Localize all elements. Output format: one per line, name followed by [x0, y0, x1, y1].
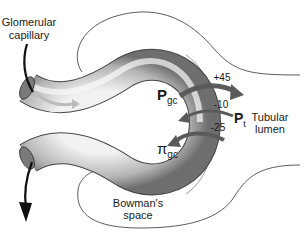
capillary-tube: [16, 61, 205, 179]
symbol-pgc: Pgc: [157, 86, 178, 106]
value-pgc: +45: [214, 72, 231, 83]
symbol-pt: Pt: [234, 110, 246, 129]
glomerular-filtration-diagram: Glomerular capillary Tubular lumen Bowma…: [0, 0, 304, 248]
value-pt: -10: [214, 99, 229, 110]
label-space: space: [123, 209, 152, 221]
label-glomerular: Glomerular: [2, 16, 57, 28]
label-bowmans: Bowman's: [113, 197, 164, 209]
value-pigc: -25: [211, 122, 226, 133]
label-capillary: capillary: [9, 29, 50, 41]
label-tubular: Tubular: [252, 111, 289, 123]
label-lumen: lumen: [255, 123, 285, 135]
outflow-arrowhead: [19, 202, 32, 222]
